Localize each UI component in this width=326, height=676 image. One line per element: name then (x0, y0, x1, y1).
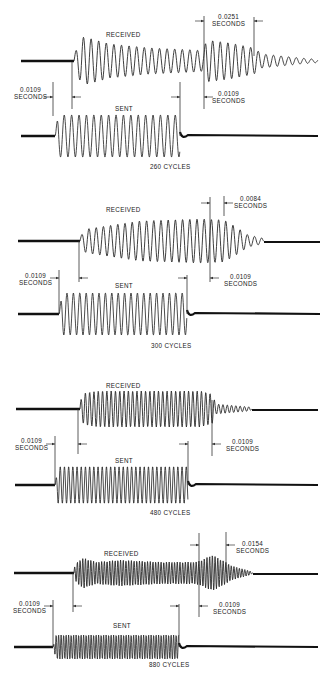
annotation-value: 0.0109 (213, 601, 246, 608)
annotation-unit: SECONDS (234, 202, 267, 209)
panel-3-arrowhead-icon (52, 443, 55, 446)
panel-2-arrowhead-icon (210, 277, 213, 280)
panel-3-arrowhead-icon (212, 443, 215, 446)
panel-4-arrowhead-icon (73, 605, 76, 608)
panel-2-arrowhead-icon (224, 202, 227, 205)
annotation-value: 0.0109 (19, 272, 52, 279)
panel-4-annotation-end: 0.0109 SECONDS (213, 601, 246, 615)
panel-2-arrowhead-icon (184, 277, 187, 280)
annotation-value: 0.0109 (13, 600, 46, 607)
panel-4-arrowhead-icon (176, 605, 179, 608)
panel-1-arrowhead-icon (204, 96, 207, 99)
panel-3-annotation-end: 0.0109 SECONDS (226, 438, 259, 452)
annotation-unit: SECONDS (15, 444, 48, 451)
panel-1-arrowhead-icon (254, 20, 257, 23)
panel-4-sent-waveform (53, 635, 179, 659)
annotation-unit: SECONDS (14, 93, 47, 100)
panel-2-received-waveform (80, 219, 264, 263)
panel-4-sent-label: SENT (113, 622, 131, 629)
panel-1-arrowhead-icon (201, 20, 204, 23)
panel-1-cycles-label: 260 CYCLES (150, 163, 190, 170)
panel-2-arrowhead-icon (207, 202, 210, 205)
panel-1-received-waveform (74, 37, 318, 84)
panel-2-annotation-tail: 0.0084 SECONDS (234, 195, 267, 209)
panel-3-sent-waveform (55, 467, 188, 503)
annotation-value: 0.0109 (224, 273, 257, 280)
panel-4-received-label: RECEIVED (104, 550, 139, 557)
panel-2-cycles-label: 300 CYCLES (151, 342, 191, 349)
annotation-unit: SECONDS (13, 607, 46, 614)
panel-2-sent-tail-baseline (187, 310, 320, 315)
annotation-unit: SECONDS (213, 608, 246, 615)
panel-3-arrowhead-icon (78, 443, 81, 446)
panel-1-annotation-start: 0.0109 SECONDS (14, 86, 47, 100)
panel-4-sent-tail-baseline (179, 643, 318, 648)
waveform-traces (0, 0, 326, 676)
annotation-value: 0.0084 (234, 195, 267, 202)
annotation-value: 0.0109 (212, 90, 245, 97)
panel-4-arrowhead-icon (226, 544, 229, 547)
annotation-value: 0.0251 (212, 13, 245, 20)
panel-1-sent-waveform (55, 115, 180, 157)
annotation-unit: SECONDS (212, 20, 245, 27)
panel-2-sent-waveform (59, 293, 187, 335)
panel-3-arrowhead-icon (185, 443, 188, 446)
panel-1-sent-tail-baseline (180, 132, 318, 137)
panel-1-arrowhead-icon (177, 96, 180, 99)
panel-2-sent-label: SENT (115, 282, 133, 289)
panel-4-annotation-tail: 0.0154 SECONDS (236, 540, 269, 554)
annotation-unit: SECONDS (226, 445, 259, 452)
annotation-unit: SECONDS (19, 279, 52, 286)
panel-1-arrowhead-icon (72, 96, 75, 99)
panel-4-annotation-start: 0.0109 SECONDS (13, 600, 46, 614)
annotation-unit: SECONDS (236, 547, 269, 554)
panel-3-received-label: RECEIVED (106, 382, 141, 389)
panel-3-cycles-label: 480 CYCLES (150, 509, 190, 516)
annotation-unit: SECONDS (224, 280, 257, 287)
annotation-value: 0.0154 (236, 540, 269, 547)
panel-1-annotation-tail: 0.0251 SECONDS (212, 13, 245, 27)
panel-2-annotation-start: 0.0109 SECONDS (19, 272, 52, 286)
annotation-value: 0.0109 (14, 86, 47, 93)
panel-1-arrowhead-icon (50, 96, 53, 99)
panel-2-arrowhead-icon (79, 277, 82, 280)
panel-3-annotation-start: 0.0109 SECONDS (15, 437, 48, 451)
panel-2-arrowhead-icon (56, 277, 59, 280)
panel-3-sent-label: SENT (115, 457, 133, 464)
panel-1-annotation-end: 0.0109 SECONDS (212, 90, 245, 104)
annotation-value: 0.0109 (15, 437, 48, 444)
panel-4-cycles-label: 880 CYCLES (149, 661, 189, 668)
annotation-unit: SECONDS (212, 97, 245, 104)
panel-1-sent-label: SENT (115, 105, 133, 112)
panel-3-sent-tail-baseline (188, 481, 318, 486)
panel-4-arrowhead-icon (50, 605, 53, 608)
panel-2-annotation-end: 0.0109 SECONDS (224, 273, 257, 287)
panel-4-arrowhead-icon (196, 544, 199, 547)
waveform-figure: RECEIVED SENT 260 CYCLES 0.0109 SECONDS … (0, 0, 326, 676)
annotation-value: 0.0109 (226, 438, 259, 445)
panel-4-arrowhead-icon (199, 605, 202, 608)
panel-3-received-waveform (80, 391, 252, 427)
panel-1-received-label: RECEIVED (106, 31, 141, 38)
panel-2-received-label: RECEIVED (106, 206, 141, 213)
